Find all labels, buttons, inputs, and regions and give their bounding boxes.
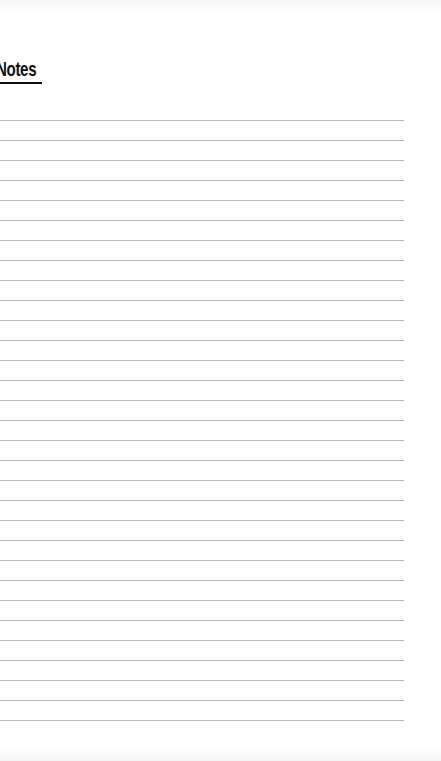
ruled-line — [0, 480, 404, 481]
ruled-line — [0, 260, 404, 261]
ruled-line — [0, 540, 404, 541]
ruled-line — [0, 660, 404, 661]
ruled-line — [0, 120, 404, 121]
ruled-line — [0, 380, 404, 381]
ruled-line — [0, 460, 404, 461]
ruled-line — [0, 600, 404, 601]
ruled-line — [0, 320, 404, 321]
ruled-line — [0, 640, 404, 641]
ruled-line — [0, 680, 404, 681]
ruled-line — [0, 620, 404, 621]
ruled-line — [0, 560, 404, 561]
ruled-lines-area — [0, 0, 441, 761]
ruled-line — [0, 140, 404, 141]
ruled-line — [0, 420, 404, 421]
ruled-line — [0, 440, 404, 441]
ruled-line — [0, 340, 404, 341]
ruled-line — [0, 580, 404, 581]
ruled-line — [0, 500, 404, 501]
ruled-line — [0, 720, 404, 721]
ruled-line — [0, 360, 404, 361]
ruled-line — [0, 240, 404, 241]
ruled-line — [0, 160, 404, 161]
ruled-line — [0, 400, 404, 401]
page-edge-bottom — [0, 747, 441, 761]
ruled-line — [0, 300, 404, 301]
ruled-line — [0, 220, 404, 221]
ruled-line — [0, 280, 404, 281]
ruled-line — [0, 200, 404, 201]
ruled-line — [0, 180, 404, 181]
ruled-line — [0, 700, 404, 701]
ruled-line — [0, 520, 404, 521]
